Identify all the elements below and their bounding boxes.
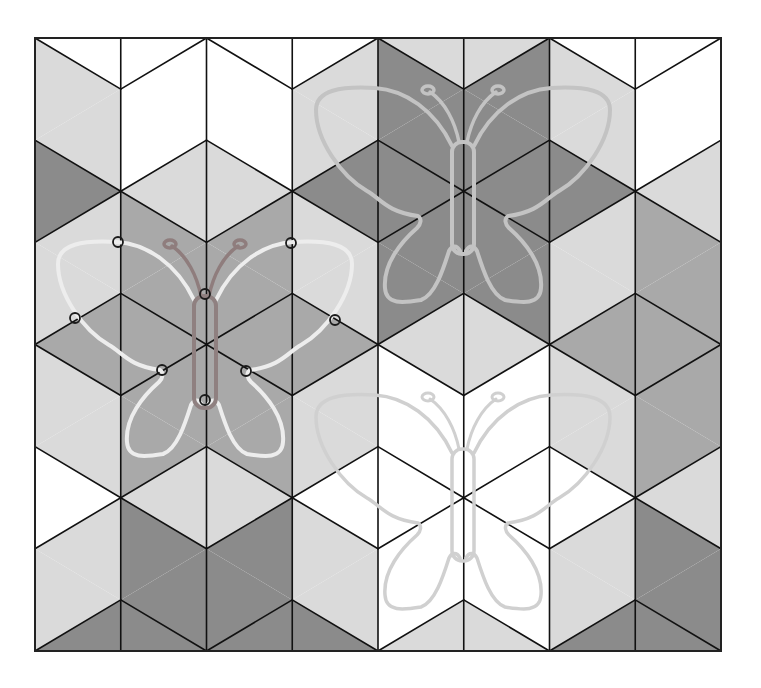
quilt-canvas (0, 0, 761, 688)
